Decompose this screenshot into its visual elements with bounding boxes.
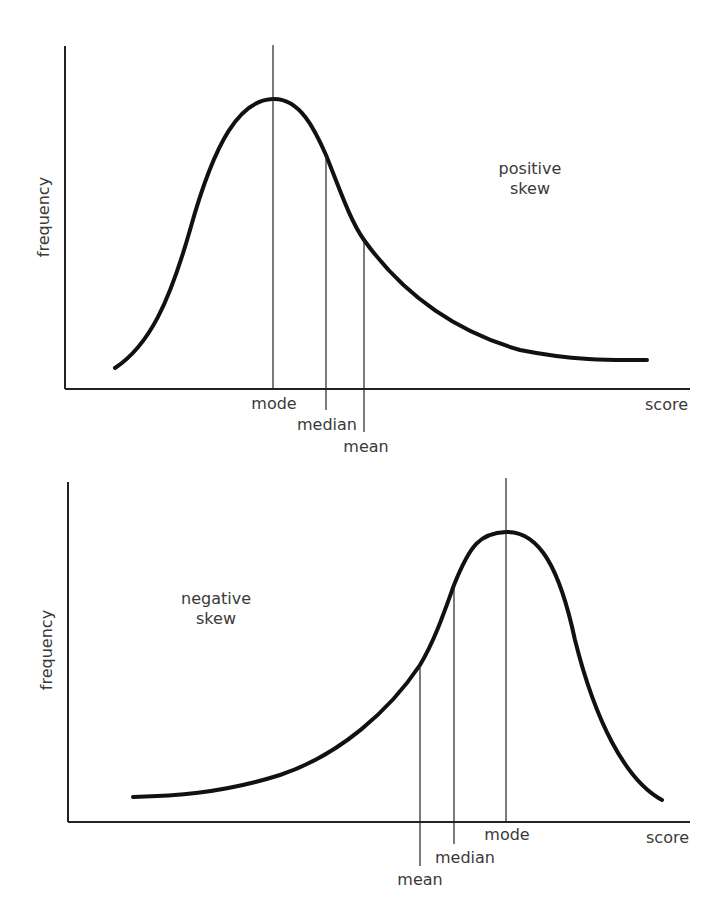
distribution-curve	[115, 99, 647, 368]
mean-label: mean	[397, 870, 442, 889]
x-axis-label: score	[645, 395, 688, 414]
y-axis-label: frequency	[34, 177, 53, 257]
mode-label: mode	[251, 394, 296, 413]
mean-label: mean	[343, 437, 388, 456]
median-label: median	[435, 848, 495, 867]
median-label: median	[297, 415, 357, 434]
distribution-curve	[133, 532, 662, 800]
y-axis-label: frequency	[37, 610, 56, 690]
annotation-line1: positive	[499, 159, 562, 178]
annotation-line2: skew	[510, 179, 550, 198]
x-axis-label: score	[646, 828, 689, 847]
skew-diagrams: frequency score positive skew mode media…	[0, 0, 728, 922]
positive-skew-chart: frequency score positive skew mode media…	[34, 45, 690, 456]
mode-label: mode	[484, 825, 529, 844]
negative-skew-chart: frequency score negative skew mode media…	[37, 478, 690, 889]
annotation-line2: skew	[196, 609, 236, 628]
annotation-line1: negative	[181, 589, 251, 608]
